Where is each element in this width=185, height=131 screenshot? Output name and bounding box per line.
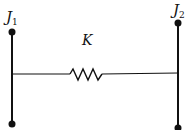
j2-label: J2 [170,1,185,20]
j1-top-node [9,29,16,36]
j2-bottom-node [175,125,182,131]
inertia-j1 [9,29,16,128]
j1-bottom-node [9,121,16,128]
spring-k [12,69,178,80]
j2-top-node [175,20,182,27]
j1-label: J1 [3,8,18,27]
spring-label: K [81,32,94,48]
spring-icon [70,69,102,80]
spring-diagram: J1 J2 K [0,0,185,130]
inertia-j2 [175,20,182,131]
